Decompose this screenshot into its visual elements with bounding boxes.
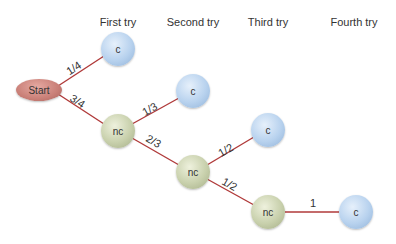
header-second-try: Second try xyxy=(167,16,220,28)
tree-edges xyxy=(0,0,396,244)
node-c-fourth-try: c xyxy=(339,195,373,229)
header-first-try: First try xyxy=(100,16,137,28)
node-nc-third-try: nc xyxy=(251,195,285,229)
node-c-second-try: c xyxy=(176,74,210,108)
node-c-third-try: c xyxy=(251,113,285,147)
start-node: Start xyxy=(16,79,62,101)
edge-label-nc3-c4: 1 xyxy=(310,197,316,209)
header-third-try: Third try xyxy=(248,16,288,28)
node-nc-first-try: nc xyxy=(101,114,135,148)
header-fourth-try: Fourth try xyxy=(330,16,377,28)
node-c-first-try: c xyxy=(101,32,135,66)
node-nc-second-try: nc xyxy=(176,155,210,189)
